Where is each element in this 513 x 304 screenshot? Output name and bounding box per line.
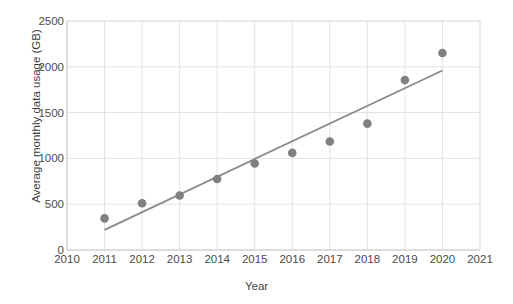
x-axis-tick-labels: 2010201120122013201420152016201720182019…	[0, 0, 513, 304]
x-tick-label: 2021	[457, 253, 503, 265]
chart-container: Average monthly data usage (GB) Year 050…	[0, 0, 513, 304]
